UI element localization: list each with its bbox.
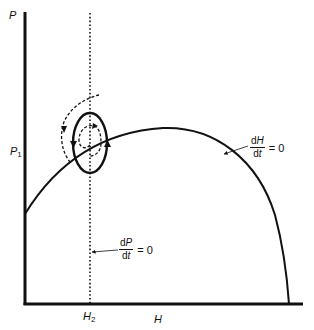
dh-num-var: H — [257, 135, 264, 146]
dp-eq: = 0 — [137, 244, 153, 256]
x-axis-label: H — [154, 314, 162, 325]
y-tick-p1: P1 — [10, 146, 22, 159]
x-tick-subscript: 2 — [91, 315, 95, 324]
inner-spiral-trajectory — [79, 126, 101, 156]
phase-plane-diagram — [0, 0, 314, 330]
y-tick-subscript: 1 — [17, 150, 21, 159]
dh-eq: = 0 — [269, 142, 285, 154]
limit-cycle-arrow-down — [70, 141, 77, 148]
y-axis-label: P — [9, 10, 16, 21]
dp-den-var: t — [128, 250, 131, 261]
dp-dt-label: dP dt = 0 — [119, 238, 153, 261]
dh-den-var: t — [259, 148, 262, 159]
dp-num-var: P — [126, 237, 133, 248]
inner-spiral-arrow — [92, 123, 98, 129]
x-tick-h2: H2 — [83, 311, 95, 324]
x-tick-letter: H — [83, 310, 91, 322]
dh-dt-label: dH dt = 0 — [250, 136, 284, 159]
outer-spiral-trajectory — [62, 95, 99, 162]
dp-dt-leader — [92, 250, 118, 252]
